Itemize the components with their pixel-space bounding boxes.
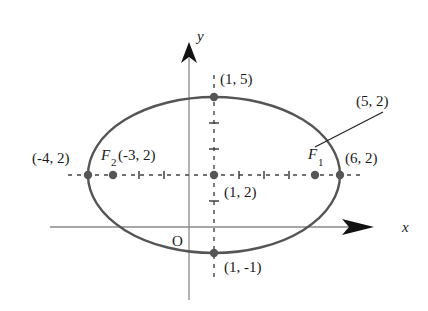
svg-text:F: F [100, 147, 111, 163]
y-axis [181, 42, 197, 300]
svg-text:1: 1 [318, 156, 324, 168]
x-axis [50, 219, 374, 235]
label-f1-coords: (5, 2) [356, 93, 389, 110]
svg-text:(-3, 2): (-3, 2) [118, 147, 156, 164]
point-focus-f2 [109, 171, 117, 179]
label-center: (1, 2) [224, 184, 257, 201]
svg-text:2: 2 [111, 156, 117, 168]
label-left-vertex: (-4, 2) [32, 150, 70, 167]
point-bottom-covertex [210, 249, 218, 257]
svg-text:F: F [307, 146, 318, 162]
point-right-vertex [336, 171, 344, 179]
point-focus-f1 [311, 171, 319, 179]
f1-leader-line [315, 112, 383, 147]
x-axis-label: x [401, 219, 409, 235]
label-f1: F 1 [307, 146, 324, 168]
label-f2: F 2 (-3, 2) [100, 147, 156, 168]
origin-label: O [172, 233, 183, 249]
point-top-covertex [210, 93, 218, 101]
label-top-covertex: (1, 5) [220, 71, 253, 88]
point-center [210, 171, 218, 179]
label-bottom-covertex: (1, -1) [224, 259, 262, 276]
point-left-vertex [84, 171, 92, 179]
label-right-vertex: (6, 2) [345, 150, 378, 167]
y-axis-label: y [195, 28, 204, 44]
ellipse-diagram: y x O (1, 5) (1, -1) (1, 2) (-4, 2) (6, … [0, 0, 428, 311]
